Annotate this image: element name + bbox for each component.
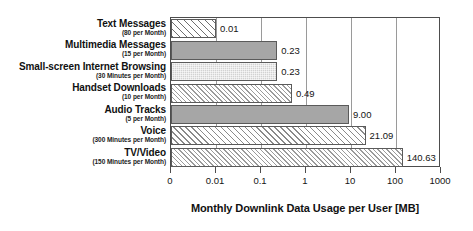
category-label-detail: (30 Minutes per Month) [19, 73, 166, 80]
bar [171, 62, 277, 81]
x-axis-tick [440, 167, 441, 173]
category-label-name: Voice [92, 126, 166, 136]
category-label-detail: (80 per Month) [97, 30, 166, 37]
bar [171, 126, 366, 145]
bar-value-label: 0.49 [296, 89, 315, 99]
category-label-name: Small-screen Internet Browsing [19, 62, 166, 72]
category-label: Voice(300 Minutes per Month) [92, 126, 166, 144]
x-axis-tick-label: 0.01 [206, 176, 225, 186]
bar-value-label: 0.23 [281, 46, 300, 56]
bar [171, 19, 216, 38]
x-axis-title: Monthly Downlink Data Usage per User [MB… [170, 202, 440, 214]
bar-value-label: 0.01 [220, 24, 239, 34]
category-label-detail: (5 per Month) [104, 116, 166, 123]
bar-value-label: 9.00 [353, 110, 372, 120]
gridline [396, 18, 397, 166]
category-label-name: TV/Video [92, 148, 166, 158]
bar [171, 84, 292, 103]
bar [171, 41, 277, 60]
category-label: Handset Downloads(10 per Month) [72, 83, 166, 101]
x-axis-tick-label: 100 [387, 176, 403, 186]
x-axis-tick [305, 167, 306, 173]
x-axis-tick [260, 167, 261, 173]
category-label-name: Audio Tracks [104, 105, 166, 115]
bar-chart: Text Messages(80 per Month)Multimedia Me… [0, 0, 473, 231]
x-axis-tick-label: 10 [345, 176, 356, 186]
x-axis-tick [395, 167, 396, 173]
x-axis-tick [215, 167, 216, 173]
bar [171, 105, 349, 124]
bar [171, 148, 403, 167]
x-axis-tick-label: 0.1 [253, 176, 266, 186]
x-axis-tick-label: 1 [302, 176, 307, 186]
category-label: Small-screen Internet Browsing(30 Minute… [19, 62, 166, 80]
category-label-name: Multimedia Messages [65, 40, 166, 50]
bar-value-label: 140.63 [407, 153, 436, 163]
category-label-detail: (150 Minutes per Month) [92, 159, 166, 166]
category-label: TV/Video(150 Minutes per Month) [92, 148, 166, 166]
x-axis-ticks [170, 167, 440, 175]
category-label: Multimedia Messages(15 per Month) [65, 40, 166, 58]
x-axis-tick-label: 0 [167, 176, 172, 186]
x-axis-tick [170, 167, 171, 173]
category-axis-labels: Text Messages(80 per Month)Multimedia Me… [0, 17, 168, 167]
category-label: Audio Tracks(5 per Month) [104, 105, 166, 123]
x-axis-tick-label: 1000 [429, 176, 450, 186]
category-label-name: Text Messages [97, 19, 166, 29]
category-label-detail: (10 per Month) [72, 94, 166, 101]
bar-value-label: 0.23 [281, 67, 300, 77]
category-label: Text Messages(80 per Month) [97, 19, 166, 37]
category-label-detail: (300 Minutes per Month) [92, 137, 166, 144]
category-label-name: Handset Downloads [72, 83, 166, 93]
bar-value-label: 21.09 [370, 131, 394, 141]
category-label-detail: (15 per Month) [65, 51, 166, 58]
x-axis-tick [350, 167, 351, 173]
